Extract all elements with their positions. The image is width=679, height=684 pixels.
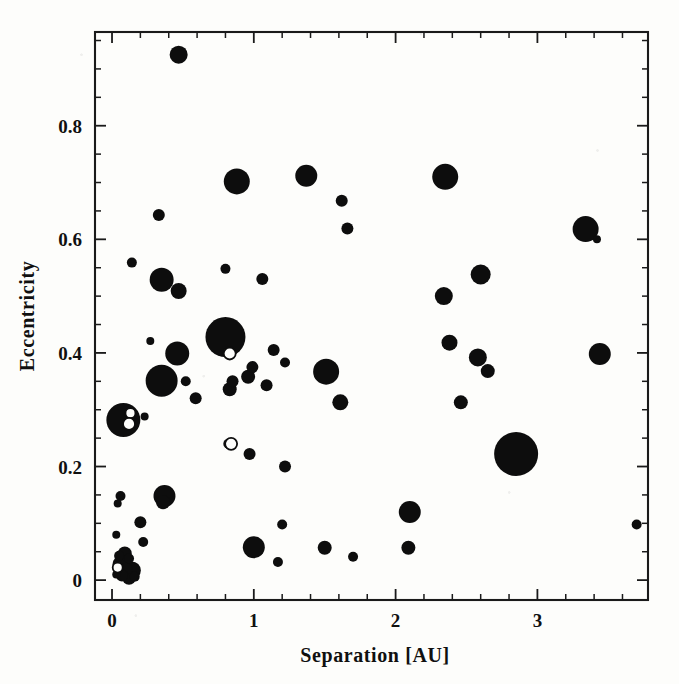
data-point <box>171 283 187 299</box>
data-point <box>146 337 154 345</box>
scatter-plot: 0123 00.20.40.60.8 Separation [AU] Eccen… <box>0 0 679 684</box>
data-point <box>295 165 317 187</box>
data-point <box>156 495 170 509</box>
data-point <box>256 273 268 285</box>
plot-border <box>95 32 648 600</box>
data-point <box>273 557 283 567</box>
data-point <box>224 168 250 194</box>
data-point <box>181 376 191 386</box>
y-tick-label: 0.4 <box>58 343 82 364</box>
data-point <box>469 348 487 366</box>
data-point <box>332 394 348 410</box>
data-point <box>134 516 146 528</box>
data-point <box>268 344 280 356</box>
data-point <box>246 361 258 373</box>
data-point <box>399 501 421 523</box>
data-point <box>114 551 124 561</box>
data-point <box>165 341 189 365</box>
data-point <box>341 223 353 235</box>
x-tick-label: 2 <box>391 610 401 631</box>
x-axis-tick-labels: 0123 <box>107 610 542 631</box>
x-tick-label: 0 <box>107 610 117 631</box>
data-point <box>494 432 538 476</box>
data-point <box>243 536 265 558</box>
figure-canvas: 0123 00.20.40.60.8 Separation [AU] Eccen… <box>0 0 679 684</box>
data-point-open <box>225 438 237 450</box>
data-point <box>313 359 339 385</box>
data-point <box>471 265 491 285</box>
data-point <box>153 209 165 221</box>
data-point <box>454 395 468 409</box>
data-point <box>244 448 256 460</box>
x-tick-label: 1 <box>249 610 259 631</box>
data-point <box>348 552 358 562</box>
data-point <box>170 46 188 64</box>
y-tick-label: 0.8 <box>58 116 82 137</box>
data-point <box>432 164 458 190</box>
data-point-open <box>113 563 123 573</box>
data-point <box>318 541 332 555</box>
data-point <box>277 519 287 529</box>
data-point <box>401 541 415 555</box>
data-point <box>593 235 601 243</box>
x-axis-title: Separation [AU] <box>300 644 450 667</box>
data-point <box>632 519 642 529</box>
y-tick-label: 0.6 <box>58 229 82 250</box>
data-point <box>441 335 457 351</box>
data-point-open <box>123 418 135 430</box>
y-tick-label: 0.2 <box>58 457 82 478</box>
data-point <box>138 537 148 547</box>
data-point <box>190 392 202 404</box>
data-point-open <box>125 408 135 418</box>
data-point <box>261 379 273 391</box>
y-axis-ticks <box>95 41 648 581</box>
data-point <box>220 264 230 274</box>
data-point <box>280 358 290 368</box>
data-point <box>150 268 174 292</box>
data-point <box>589 343 611 365</box>
data-point <box>435 287 453 305</box>
y-axis-title: Eccentricity <box>16 261 39 371</box>
y-axis-tick-labels: 00.20.40.60.8 <box>58 116 82 591</box>
data-point <box>336 195 348 207</box>
data-point <box>141 413 149 421</box>
data-point <box>112 531 120 539</box>
x-tick-label: 3 <box>533 610 543 631</box>
data-point <box>130 572 140 582</box>
plot-frame <box>95 32 648 600</box>
data-point <box>227 375 239 387</box>
data-point <box>146 365 178 397</box>
data-point-layer <box>106 46 641 585</box>
data-point <box>106 403 140 437</box>
data-point <box>481 364 495 378</box>
data-point <box>124 554 134 564</box>
y-tick-label: 0 <box>73 570 83 591</box>
data-point <box>279 461 291 473</box>
data-point <box>127 258 137 268</box>
x-axis-ticks <box>112 32 622 600</box>
data-point <box>114 499 122 507</box>
data-point-open <box>224 347 236 359</box>
